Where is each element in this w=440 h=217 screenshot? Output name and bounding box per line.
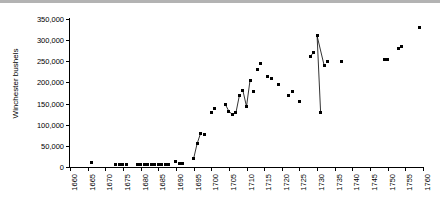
data-point (125, 163, 128, 166)
data-point (340, 60, 343, 63)
data-point (224, 103, 227, 106)
x-tick-mark (158, 167, 159, 171)
data-point (277, 83, 280, 86)
x-tick-mark (282, 167, 283, 171)
x-tick-label: 1675 (123, 174, 132, 191)
x-tick-mark (211, 167, 212, 171)
y-axis-title-text: Winchester bushels (12, 49, 21, 119)
x-tick-label: 1730 (317, 174, 326, 191)
x-tick-label: 1715 (264, 174, 273, 191)
y-tick-label: 100,000 (37, 120, 64, 129)
data-point (203, 133, 206, 136)
x-tick-mark (70, 167, 71, 171)
x-tick-label: 1725 (299, 174, 308, 191)
y-tick-label: 250,000 (37, 57, 64, 66)
data-point (249, 79, 252, 82)
x-tick-mark (370, 167, 371, 171)
x-tick-mark (299, 167, 300, 171)
x-tick-label: 1760 (423, 174, 432, 191)
data-point (298, 100, 301, 103)
x-tick-label: 1720 (282, 174, 291, 191)
x-tick-mark (405, 167, 406, 171)
data-point (192, 157, 195, 160)
x-tick-mark (229, 167, 230, 171)
data-point (287, 94, 290, 97)
x-tick-label: 1690 (176, 174, 185, 191)
y-tick-label: 150,000 (37, 99, 64, 108)
top-border-rule (0, 0, 440, 3)
data-point (309, 55, 312, 58)
data-point (259, 62, 262, 65)
data-point (316, 34, 319, 37)
x-tick-label: 1750 (388, 174, 397, 191)
data-point (256, 68, 259, 71)
x-tick-mark (123, 167, 124, 171)
chart-container: Winchester bushels 050,000100,000150,000… (0, 0, 440, 217)
data-point (323, 64, 326, 67)
x-tick-label: 1695 (194, 174, 203, 191)
y-tick-label: 50,000 (41, 141, 64, 150)
x-tick-label: 1705 (229, 174, 238, 191)
x-tick-label: 1740 (352, 174, 361, 191)
x-tick-label: 1680 (141, 174, 150, 191)
x-tick-mark (352, 167, 353, 171)
data-point (90, 161, 93, 164)
data-point (418, 26, 421, 29)
x-tick-label: 1745 (370, 174, 379, 191)
x-tick-mark (194, 167, 195, 171)
data-point (386, 58, 389, 61)
data-point (241, 89, 244, 92)
x-tick-label: 1700 (211, 174, 220, 191)
series-segment (194, 133, 201, 159)
y-tick-label: 0 (60, 163, 64, 172)
x-tick-label: 1660 (70, 174, 79, 191)
x-tick-label: 1685 (158, 174, 167, 191)
data-point (270, 77, 273, 80)
data-point (181, 162, 184, 165)
series-connector-lines (70, 19, 423, 167)
data-point (238, 94, 241, 97)
x-tick-mark (264, 167, 265, 171)
x-tick-mark (176, 167, 177, 171)
data-point (245, 105, 248, 108)
data-point (400, 45, 403, 48)
y-tick-label: 300,000 (37, 36, 64, 45)
x-tick-mark (247, 167, 248, 171)
x-tick-label: 1665 (88, 174, 97, 191)
x-tick-label: 1710 (247, 174, 256, 191)
x-tick-mark (423, 167, 424, 171)
data-point (167, 163, 170, 166)
x-tick-mark (388, 167, 389, 171)
x-tick-label: 1755 (405, 174, 414, 191)
data-point (326, 60, 329, 63)
x-tick-mark (141, 167, 142, 171)
y-axis-title: Winchester bushels (10, 0, 22, 167)
data-point (210, 111, 213, 114)
data-point (234, 111, 237, 114)
plot-area (70, 19, 423, 167)
data-point (213, 107, 216, 110)
x-tick-mark (335, 167, 336, 171)
data-point (196, 142, 199, 145)
x-tick-label: 1670 (105, 174, 114, 191)
x-tick-mark (317, 167, 318, 171)
x-tick-label: 1735 (335, 174, 344, 191)
x-tick-mark (88, 167, 89, 171)
y-tick-label: 350,000 (37, 15, 64, 24)
data-point (252, 90, 255, 93)
y-tick-label: 200,000 (37, 78, 64, 87)
series-segment (243, 80, 250, 106)
x-tick-mark (105, 167, 106, 171)
data-point (319, 111, 322, 114)
data-point (312, 51, 315, 54)
data-point (291, 90, 294, 93)
